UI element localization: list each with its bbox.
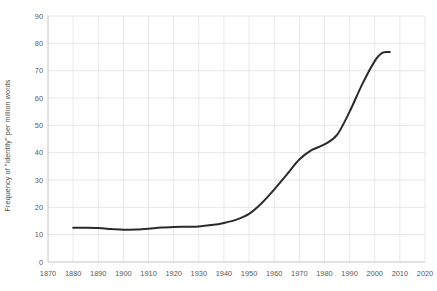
- y-tick-label: 10: [35, 230, 43, 239]
- x-tick-label: 2010: [392, 269, 408, 278]
- y-tick-label: 40: [35, 148, 43, 157]
- x-tick-label: 2020: [417, 269, 433, 278]
- plot-area: 0102030405060708090 18701880189019001910…: [0, 0, 437, 291]
- x-tick-label: 1940: [216, 269, 232, 278]
- x-tick-label: 1990: [341, 269, 357, 278]
- x-tick-label: 1890: [90, 269, 106, 278]
- y-tick-label: 20: [35, 203, 43, 212]
- gridlines: [48, 16, 425, 262]
- y-tick-label: 70: [35, 66, 43, 75]
- y-tick-label: 50: [35, 121, 43, 130]
- y-tick-label: 80: [35, 39, 43, 48]
- x-tick-label: 1950: [241, 269, 257, 278]
- x-tick-label: 1910: [140, 269, 156, 278]
- data-series: [73, 52, 390, 230]
- x-tick-label: 1920: [165, 269, 181, 278]
- x-tick-label: 2000: [367, 269, 383, 278]
- line-chart-svg: 0102030405060708090 18701880189019001910…: [0, 0, 437, 291]
- y-tick-label: 0: [39, 258, 43, 267]
- x-tick-label: 1930: [191, 269, 207, 278]
- y-tick-label: 60: [35, 94, 43, 103]
- chart-container: Frequency of "identity" per million word…: [0, 0, 437, 291]
- x-tick-label: 1870: [40, 269, 56, 278]
- x-tick-label: 1980: [316, 269, 332, 278]
- series-line: [73, 52, 390, 230]
- y-tick-label: 30: [35, 176, 43, 185]
- x-tick-label: 1900: [115, 269, 131, 278]
- x-tick-labels: 1870188018901900191019201930194019501960…: [40, 269, 433, 278]
- y-tick-label: 90: [35, 12, 43, 21]
- axis-lines: [48, 16, 425, 262]
- x-tick-label: 1880: [65, 269, 81, 278]
- x-tick-label: 1960: [266, 269, 282, 278]
- x-tick-label: 1970: [291, 269, 307, 278]
- y-tick-labels: 0102030405060708090: [35, 12, 43, 267]
